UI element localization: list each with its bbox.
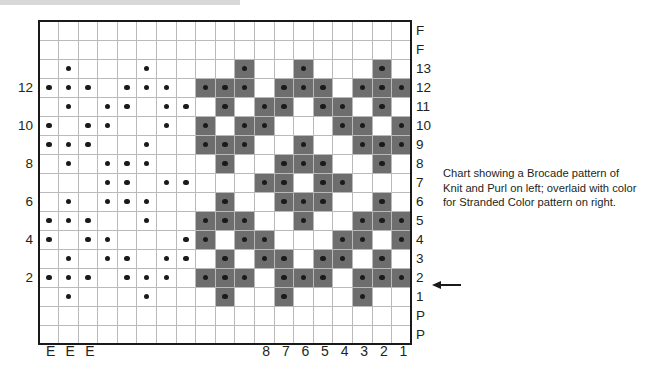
chart-cell: [157, 97, 177, 116]
chart-cell: [274, 59, 294, 78]
chart-cell: [392, 173, 412, 192]
chart-cell: [333, 40, 353, 59]
chart-cell: [39, 21, 59, 40]
chart-cell: [333, 21, 353, 40]
chart-cell: [333, 116, 353, 135]
chart-cell: [196, 135, 216, 154]
chart-cell: [274, 78, 294, 97]
chart-cell: [372, 135, 392, 154]
chart-cell: [353, 287, 373, 306]
chart-cell: [39, 192, 59, 211]
chart-cell: [137, 192, 157, 211]
row-label: 8: [0, 154, 33, 173]
chart-cell: [392, 21, 412, 40]
chart-cell: [78, 211, 98, 230]
chart-cell: [39, 306, 59, 325]
chart-cell: [372, 192, 392, 211]
row-label: 2: [0, 268, 33, 287]
chart-cell: [372, 211, 392, 230]
chart-cell: [137, 306, 157, 325]
chart-cell: [98, 116, 118, 135]
chart-row: [39, 97, 411, 116]
chart-cell: [353, 230, 373, 249]
chart-cell: [196, 268, 216, 287]
chart-cell: [176, 268, 196, 287]
chart-cell: [313, 116, 333, 135]
chart-cell: [176, 173, 196, 192]
chart-cell: [137, 21, 157, 40]
chart-cell: [117, 59, 137, 78]
chart-cell: [353, 192, 373, 211]
chart-cell: [196, 230, 216, 249]
chart-cell: [313, 230, 333, 249]
chart-cell: [255, 21, 275, 40]
chart-cell: [176, 211, 196, 230]
chart-cell: [117, 97, 137, 116]
chart-cell: [255, 154, 275, 173]
chart-cell: [392, 306, 412, 325]
chart-cell: [353, 116, 373, 135]
chart-cell: [196, 78, 216, 97]
chart-cell: [235, 211, 255, 230]
chart-cell: [235, 135, 255, 154]
chart-cell: [392, 211, 412, 230]
chart-cell: [215, 59, 235, 78]
chart-cell: [137, 268, 157, 287]
chart-cell: [39, 173, 59, 192]
chart-cell: [333, 59, 353, 78]
chart-cell: [176, 230, 196, 249]
chart-cell: [78, 97, 98, 116]
chart-cell: [372, 154, 392, 173]
chart-cell: [235, 287, 255, 306]
row-label: 9: [416, 135, 450, 154]
chart-cell: [294, 135, 314, 154]
chart-cell: [372, 21, 392, 40]
chart-cell: [196, 21, 216, 40]
chart-cell: [215, 211, 235, 230]
column-label: 4: [335, 342, 355, 360]
chart-cell: [215, 154, 235, 173]
chart-row: [39, 40, 411, 59]
chart-row: [39, 154, 411, 173]
chart-row: [39, 173, 411, 192]
column-label: 1: [393, 342, 413, 360]
row-label: 13: [416, 59, 450, 78]
chart-cell: [235, 116, 255, 135]
chart-cell: [39, 40, 59, 59]
chart-cell: [313, 211, 333, 230]
row-labels-left: 12108642: [0, 20, 33, 345]
chart-cell: [196, 116, 216, 135]
chart-cell: [196, 97, 216, 116]
chart-cell: [353, 135, 373, 154]
chart-cell: [78, 154, 98, 173]
chart-cell: [372, 287, 392, 306]
chart-cell: [78, 249, 98, 268]
chart-cell: [137, 287, 157, 306]
chart-cell: [137, 97, 157, 116]
chart-cell: [137, 40, 157, 59]
chart-cell: [157, 40, 177, 59]
chart-cell: [372, 78, 392, 97]
chart-cell: [274, 192, 294, 211]
chart-row: [39, 59, 411, 78]
column-label: 8: [256, 342, 276, 360]
chart-cell: [59, 97, 79, 116]
chart-cell: [117, 230, 137, 249]
chart-cell: [313, 59, 333, 78]
chart-cell: [333, 135, 353, 154]
chart-cell: [215, 78, 235, 97]
chart-cell: [215, 249, 235, 268]
chart-cell: [98, 249, 118, 268]
chart-cell: [353, 211, 373, 230]
chart-cell: [255, 211, 275, 230]
chart-cell: [215, 135, 235, 154]
chart-cell: [392, 230, 412, 249]
chart-cell: [78, 173, 98, 192]
chart-cell: [176, 154, 196, 173]
chart-cell: [392, 287, 412, 306]
chart-cell: [78, 78, 98, 97]
chart-cell: [78, 40, 98, 59]
column-label: E: [60, 342, 80, 360]
chart-cell: [313, 135, 333, 154]
chart-cell: [98, 173, 118, 192]
